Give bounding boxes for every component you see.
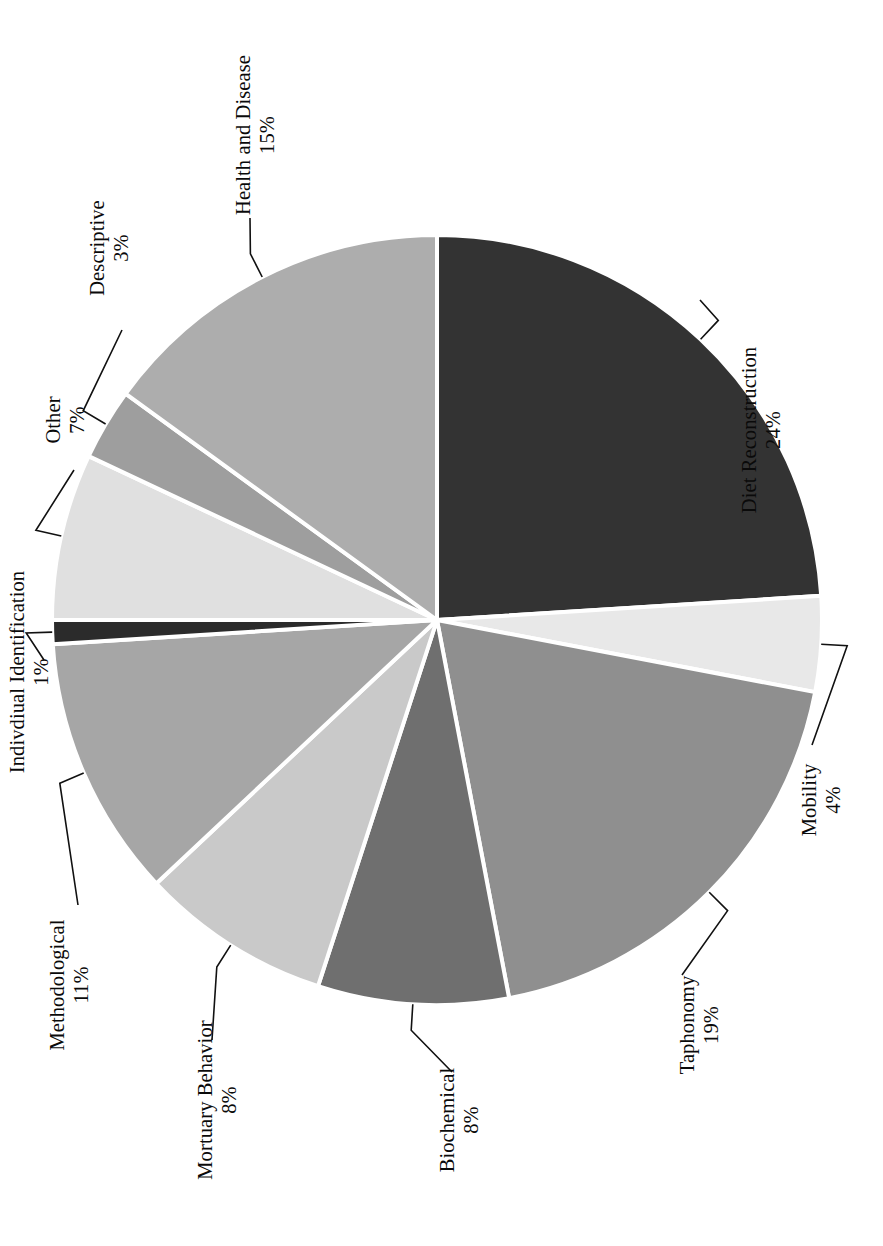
callout-percent-mortuary-behavior: 8%	[218, 1020, 242, 1179]
callout-percent-methodological: 11%	[70, 919, 94, 1050]
callout-label-diet-reconstruction: Diet Reconstruction 24%	[738, 347, 786, 513]
callout-percent-health-and-disease: 15%	[256, 55, 280, 215]
pie-chart-canvas: Diet Reconstruction 24%Mobility 4%Taphon…	[0, 0, 883, 1246]
callout-name-methodological: Methodological	[46, 919, 70, 1050]
pie-chart-figure: Diet Reconstruction 24%Mobility 4%Taphon…	[0, 0, 883, 1246]
callout-name-other: Other	[42, 396, 66, 443]
callout-name-mobility: Mobility	[798, 764, 822, 837]
callout-label-descriptive: Descriptive 3%	[86, 200, 134, 296]
pie-slices-group: Diet Reconstruction 24%Mobility 4%Taphon…	[52, 235, 822, 1005]
callout-percent-individual-identification: 1%	[30, 571, 54, 773]
callout-percent-diet-reconstruction: 24%	[762, 347, 786, 513]
callout-label-biochemical: Biochemical 8%	[436, 1068, 484, 1173]
callout-name-taphonomy: Taphonomy	[676, 976, 700, 1075]
callout-percent-descriptive: 3%	[110, 200, 134, 296]
callout-label-methodological: Methodological 11%	[46, 919, 94, 1050]
callout-label-health-and-disease: Health and Disease 15%	[232, 55, 280, 215]
callout-name-health-and-disease: Health and Disease	[232, 55, 256, 215]
callout-name-biochemical: Biochemical	[436, 1068, 460, 1173]
callout-label-mobility: Mobility 4%	[798, 764, 846, 837]
callout-label-taphonomy: Taphonomy 19%	[676, 976, 724, 1075]
callout-percent-taphonomy: 19%	[700, 976, 724, 1075]
callout-label-other: Other 7%	[42, 396, 90, 443]
callout-name-diet-reconstruction: Diet Reconstruction	[738, 347, 762, 513]
callout-name-descriptive: Descriptive	[86, 200, 110, 296]
callout-label-individual-identification: Indivdiual Identification 1%	[6, 571, 54, 773]
callout-name-individual-identification: Indivdiual Identification	[6, 571, 30, 773]
callout-label-mortuary-behavior: Mortuary Behavior 8%	[194, 1020, 242, 1179]
callout-percent-biochemical: 8%	[460, 1068, 484, 1173]
callout-percent-mobility: 4%	[822, 764, 846, 837]
callout-percent-other: 7%	[66, 396, 90, 443]
callout-name-mortuary-behavior: Mortuary Behavior	[194, 1020, 218, 1179]
